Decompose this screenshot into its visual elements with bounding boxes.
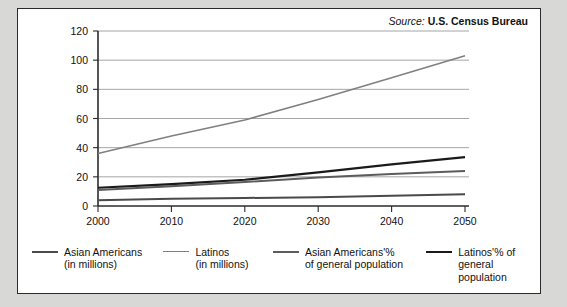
y-axis-tick-label: 80 <box>58 83 88 95</box>
y-axis-tick-label: 20 <box>58 171 88 183</box>
chart-screenshot: Source: U.S. Census Bureau 0204060801001… <box>0 0 567 307</box>
y-axis-tick-label: 120 <box>58 25 88 37</box>
legend-label: Latinos (in millions) <box>195 246 248 271</box>
legend-item-asian-americans-percent[interactable]: Asian Americans'% of general population <box>273 246 426 271</box>
legend-label: Asian Americans'% of general population <box>305 246 403 271</box>
legend-swatch-latinos-millions <box>163 246 189 257</box>
legend-item-latinos-percent[interactable]: Latinos'% of general population <box>426 246 530 284</box>
chart-legend: Asian Americans (in millions)Latinos (in… <box>32 246 530 284</box>
y-axis-tick-label: 0 <box>58 200 88 212</box>
legend-swatch-asian-americans-millions <box>32 246 58 257</box>
x-axis-tick-label: 2010 <box>148 215 194 227</box>
legend-label: Asian Americans (in millions) <box>64 246 142 271</box>
plot-area: 020406080100120200020102020203020402050 <box>81 23 469 228</box>
y-axis-tick-label: 40 <box>58 142 88 154</box>
plot-canvas <box>81 23 469 228</box>
x-axis-tick-label: 2040 <box>369 215 415 227</box>
y-axis-tick-label: 100 <box>58 54 88 66</box>
legend-swatch-asian-americans-percent <box>273 246 299 257</box>
chart-card: Source: U.S. Census Bureau 0204060801001… <box>17 8 541 294</box>
x-axis-tick-label: 2000 <box>75 215 121 227</box>
y-axis-tick-label: 60 <box>58 113 88 125</box>
legend-item-latinos-millions[interactable]: Latinos (in millions) <box>163 246 273 271</box>
legend-item-asian-americans-millions[interactable]: Asian Americans (in millions) <box>32 246 163 271</box>
series-line <box>98 194 465 200</box>
legend-swatch-latinos-percent <box>426 246 452 257</box>
x-axis-tick-label: 2020 <box>222 215 268 227</box>
x-axis-tick-label: 2030 <box>295 215 341 227</box>
series-line <box>98 56 465 154</box>
legend-label: Latinos'% of general population <box>458 246 530 284</box>
series-line <box>98 171 465 190</box>
x-axis-tick-label: 2050 <box>442 215 488 227</box>
